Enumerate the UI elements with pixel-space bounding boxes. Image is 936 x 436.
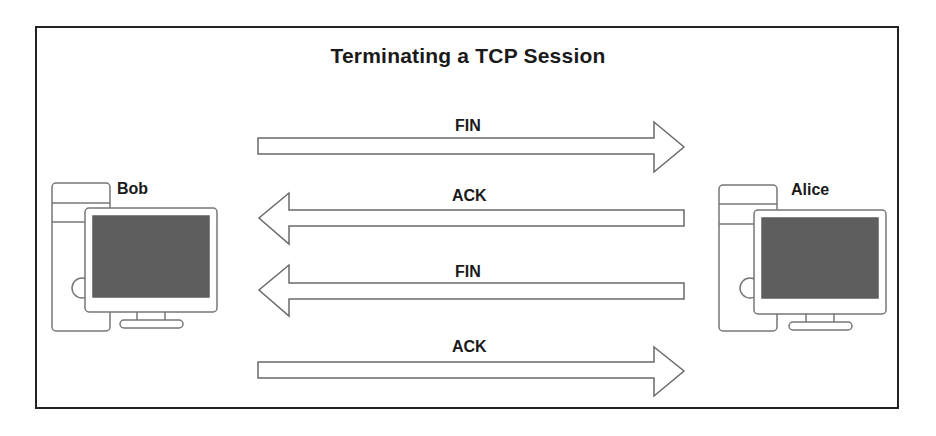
diagram-canvas [0,0,936,436]
message-label-ack-1: ACK [452,187,487,205]
host-label-bob: Bob [117,180,148,198]
bob-computer-icon [52,183,217,331]
message-label-ack-2: ACK [452,338,487,356]
message-label-fin-2: FIN [455,263,481,281]
alice-computer-icon [719,185,886,331]
message-label-fin-1: FIN [455,117,481,135]
host-label-alice: Alice [791,181,829,199]
